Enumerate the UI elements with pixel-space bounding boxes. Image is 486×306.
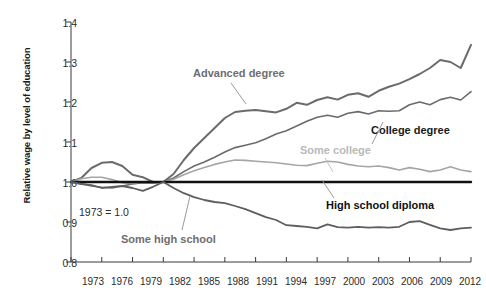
annotation-leader-lines <box>182 83 383 230</box>
series-line-advanced-degree <box>71 45 471 182</box>
series-line-some-college <box>71 160 471 184</box>
leader-line-advanced-degree <box>231 83 246 104</box>
series-line-some-high-school <box>71 182 471 230</box>
leader-line-some-college <box>325 158 333 172</box>
leader-line-some-high-school <box>182 196 190 230</box>
axes <box>66 22 471 262</box>
leader-line-college-degree <box>372 122 383 144</box>
series-lines <box>71 45 471 230</box>
